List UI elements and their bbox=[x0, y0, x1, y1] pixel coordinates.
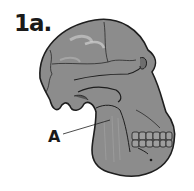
skull-illustration bbox=[0, 0, 194, 191]
annotation-label-a: A bbox=[48, 127, 60, 146]
cranium bbox=[40, 19, 175, 176]
teeth bbox=[132, 132, 172, 147]
